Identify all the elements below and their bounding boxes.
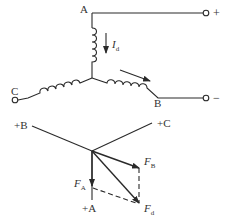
fd-symbol: F	[144, 202, 151, 214]
label-plus: +	[213, 7, 220, 19]
coil-b	[92, 78, 203, 98]
diagram-svg	[0, 0, 227, 224]
minus-terminal	[203, 95, 209, 101]
id-subscript: d	[116, 45, 120, 53]
plus-terminal	[203, 10, 209, 16]
fa-subscript: A	[81, 184, 86, 192]
fa-symbol: F	[74, 177, 81, 189]
axis-plus-c	[92, 123, 152, 151]
label-plus-a: +A	[82, 203, 96, 214]
axis-plus-b	[32, 126, 92, 151]
label-b: B	[154, 98, 161, 109]
diagram-canvas: A + C B − Id +B +C +A FA FB Fd	[0, 0, 227, 224]
label-fb: FB	[144, 156, 155, 167]
wire-a-to-plus	[92, 13, 203, 28]
label-fd: Fd	[144, 203, 154, 214]
direction-arrow	[120, 70, 150, 81]
coil-c	[18, 78, 92, 100]
fd-subscript: d	[151, 209, 155, 217]
label-minus: −	[213, 92, 220, 104]
fb-subscript: B	[151, 162, 156, 170]
label-plus-c: +C	[157, 118, 171, 129]
label-fa: FA	[74, 178, 86, 189]
dashed-fa-fd	[93, 188, 136, 203]
label-plus-b: +B	[14, 120, 28, 131]
label-c: C	[11, 86, 18, 97]
coil-a	[92, 28, 97, 78]
label-a: A	[80, 4, 88, 15]
fb-symbol: F	[144, 155, 151, 167]
label-id: Id	[112, 39, 119, 50]
c-terminal	[12, 97, 18, 103]
